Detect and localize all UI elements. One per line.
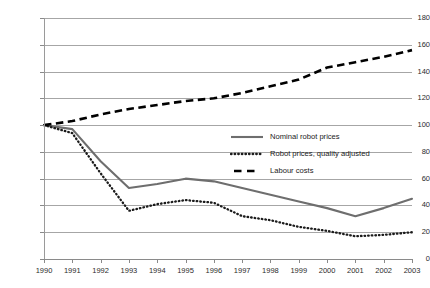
- dotted-line-swatch-icon: [230, 148, 264, 160]
- solid-line-swatch-icon: [230, 131, 264, 143]
- y-axis-tick: [40, 72, 44, 73]
- y-axis-tick: [40, 45, 44, 46]
- legend-item-nominal-robot-prices: Nominal robot prices: [230, 128, 410, 145]
- y-axis-tick: [40, 125, 44, 126]
- y-axis-line: [44, 18, 45, 260]
- y-axis-tick: [40, 205, 44, 206]
- y-axis-tick: [40, 18, 44, 19]
- legend-item-robot-prices-quality-adjusted: Robot prices, quality adjusted: [230, 145, 410, 162]
- legend-label: Robot prices, quality adjusted: [270, 149, 370, 158]
- x-axis-tick: [412, 259, 413, 263]
- y-axis-tick-label: 20: [392, 228, 430, 236]
- legend-item-labour-costs: Labour costs: [230, 162, 410, 179]
- x-axis-tick-label: 2003: [395, 266, 429, 275]
- x-axis-tick: [44, 259, 45, 263]
- series-line-labour-costs: [44, 50, 412, 125]
- x-axis-tick: [214, 259, 215, 263]
- y-axis-tick: [40, 232, 44, 233]
- x-axis-tick: [72, 259, 73, 263]
- x-axis-tick: [157, 259, 158, 263]
- x-axis-tick: [299, 259, 300, 263]
- dashed-line-swatch-icon: [230, 165, 264, 177]
- y-axis-tick-label: 160: [392, 41, 430, 49]
- x-axis-tick: [101, 259, 102, 263]
- y-axis-tick: [40, 179, 44, 180]
- y-axis-tick-label: 40: [392, 201, 430, 209]
- x-axis-tick: [355, 259, 356, 263]
- y-axis-tick-label: 180: [392, 14, 430, 22]
- x-axis-tick: [242, 259, 243, 263]
- y-axis-tick-label: 0: [392, 255, 430, 263]
- legend-label: Labour costs: [270, 166, 313, 175]
- x-axis-tick: [129, 259, 130, 263]
- chart-legend: Nominal robot prices Robot prices, quali…: [230, 128, 410, 179]
- legend-label: Nominal robot prices: [270, 132, 340, 141]
- y-axis-tick: [40, 152, 44, 153]
- x-axis-tick: [270, 259, 271, 263]
- y-axis-tick-label: 120: [392, 94, 430, 102]
- x-axis-tick: [384, 259, 385, 263]
- x-axis-tick: [186, 259, 187, 263]
- line-chart: 020406080100120140160180 199019911992199…: [0, 0, 430, 288]
- x-axis-line: [44, 259, 413, 260]
- x-axis-tick: [327, 259, 328, 263]
- y-axis-tick: [40, 98, 44, 99]
- y-axis-tick-label: 140: [392, 68, 430, 76]
